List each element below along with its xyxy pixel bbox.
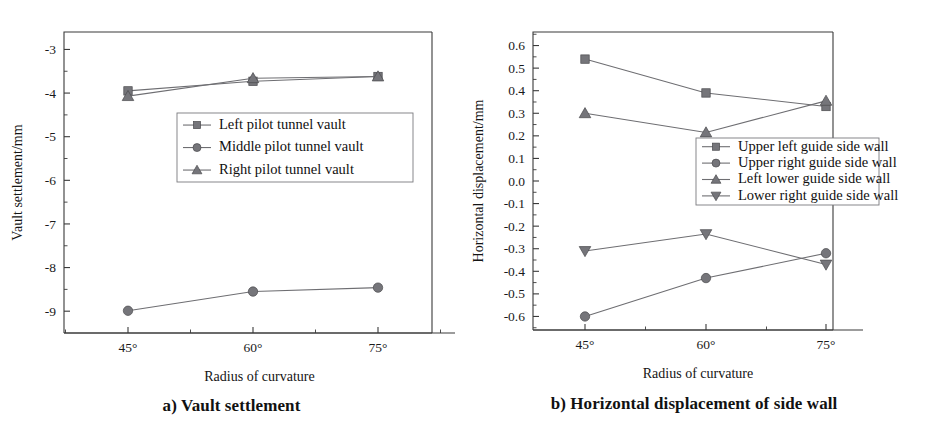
legend-label-2: Left lower guide side wall (738, 170, 890, 186)
y-tick-label: 0.3 (508, 106, 525, 121)
y-axis-title: Horizontal displacement/mm (471, 99, 486, 262)
x-tick-label: 60° (697, 337, 716, 352)
y-tick-label: -4 (45, 86, 56, 101)
y-tick-label: 0.0 (508, 174, 525, 189)
chart-panel-vault-settlement: -3-4-5-6-7-8-945°60°75°Vault settlement/… (0, 0, 463, 433)
y-tick-label: -0.3 (504, 241, 526, 256)
panel-b-caption: b) Horizontal displacement of side wall (463, 394, 925, 414)
y-tick-label: 0.2 (508, 128, 525, 143)
y-axis-title: Vault settlement/mm (10, 124, 25, 240)
y-tick-label: 0.4 (508, 83, 525, 98)
legend-label-1: Middle pilot tunnel vault (219, 138, 364, 154)
x-tick-label: 75° (369, 340, 388, 355)
x-axis-title: Radius of curvature (204, 369, 314, 384)
x-tick-label: 75° (817, 337, 836, 352)
y-tick-label: -9 (45, 304, 56, 319)
y-tick-label: 0.1 (508, 151, 525, 166)
data-point-s3-2 (820, 260, 832, 270)
legend-label-1: Upper right guide side wall (738, 154, 897, 170)
x-tick-label: 45° (119, 340, 138, 355)
y-tick-label: -5 (45, 129, 56, 144)
x-tick-label: 60° (244, 340, 263, 355)
y-tick-label: -6 (45, 173, 56, 188)
y-tick-label: 0.6 (508, 38, 525, 53)
y-tick-label: -0.6 (504, 309, 526, 324)
legend-marker-1 (712, 159, 720, 167)
series-line-0 (585, 59, 826, 106)
data-point-s2-0 (579, 108, 591, 118)
legend-marker-0 (712, 143, 719, 150)
legend-marker-0 (193, 121, 200, 128)
y-tick-label: -0.4 (504, 264, 526, 279)
vault-settlement-chart: -3-4-5-6-7-8-945°60°75°Vault settlement/… (0, 0, 463, 433)
data-point-s1-1 (701, 273, 710, 282)
y-tick-label: -7 (45, 217, 56, 232)
y-tick-label: -3 (45, 42, 56, 57)
legend-label-3: Lower right guide side wall (738, 187, 898, 203)
legend-marker-1 (193, 144, 201, 152)
y-tick-label: -0.5 (504, 286, 526, 301)
data-point-s3-0 (579, 247, 591, 257)
y-tick-label: -0.1 (504, 196, 525, 211)
data-point-s1-1 (248, 287, 257, 296)
data-point-s1-2 (821, 249, 830, 258)
legend-label-0: Upper left guide side wall (738, 138, 889, 154)
chart-panel-horizontal-displacement: 0.60.50.40.30.20.10.0-0.1-0.2-0.3-0.4-0.… (463, 0, 925, 433)
data-point-s0-1 (702, 89, 710, 97)
x-axis-title: Radius of curvature (643, 366, 753, 381)
panel-a-caption: a) Vault settlement (0, 396, 463, 416)
data-point-s2-2 (820, 95, 832, 105)
data-point-s0-0 (581, 55, 589, 63)
series-line-1 (585, 253, 826, 316)
legend-label-2: Right pilot tunnel vault (219, 161, 354, 177)
legend-label-0: Left pilot tunnel vault (219, 116, 346, 132)
data-point-s1-0 (580, 312, 589, 321)
figure-container: -3-4-5-6-7-8-945°60°75°Vault settlement/… (0, 0, 925, 433)
horizontal-displacement-chart: 0.60.50.40.30.20.10.0-0.1-0.2-0.3-0.4-0.… (463, 0, 925, 433)
data-point-s1-2 (373, 283, 382, 292)
y-tick-label: -8 (45, 260, 56, 275)
y-tick-label: -0.2 (504, 219, 525, 234)
x-tick-label: 45° (576, 337, 595, 352)
data-point-s1-0 (123, 306, 132, 315)
y-tick-label: 0.5 (508, 61, 525, 76)
